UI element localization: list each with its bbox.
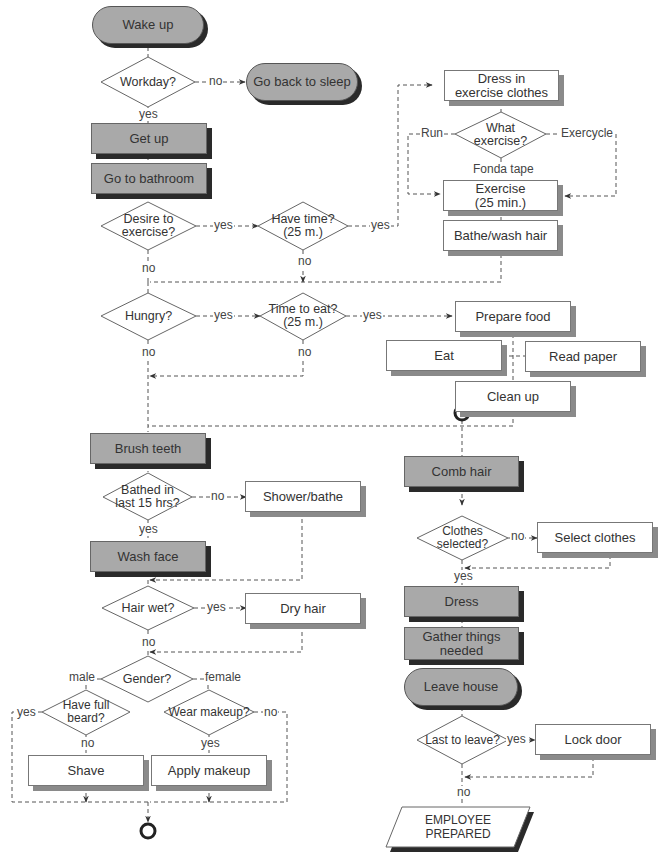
- decision-what-exercise-text: What exercise?: [455, 122, 546, 148]
- process-go-to-bathroom-label: Go to bathroom: [104, 172, 194, 186]
- connector-circle-bottom: [141, 824, 155, 838]
- decision-makeup-label: Wear makeup?: [168, 706, 249, 719]
- process-gather-things: Gather things needed: [404, 627, 519, 660]
- decision-clothes-line2: selected?: [437, 538, 488, 551]
- decision-last-to-leave-label: Last to leave?: [425, 734, 500, 747]
- terminal-wake-up-label: Wake up: [123, 18, 174, 32]
- process-select-clothes: Select clothes: [537, 522, 653, 553]
- edge-label-hair-wet-yes: yes: [206, 601, 227, 614]
- edge-label-workday-yes: yes: [138, 108, 159, 121]
- decision-last-to-leave-text: Last to leave?: [417, 730, 508, 750]
- terminal-wake-up: Wake up: [92, 6, 204, 44]
- process-dress-exercise-line1: Dress in: [478, 72, 526, 86]
- process-shower-bathe-label: Shower/bathe: [263, 490, 343, 504]
- process-prepare-food: Prepare food: [455, 301, 571, 332]
- decision-clothes-text: Clothes selected?: [417, 525, 508, 551]
- edge-label-time-eat-no: no: [297, 346, 312, 359]
- process-exercise-line1: Exercise: [476, 182, 526, 196]
- process-apply-makeup: Apply makeup: [151, 755, 267, 786]
- process-bathe-wash-hair: Bathe/wash hair: [443, 220, 558, 251]
- decision-gender-label: Gender?: [123, 673, 172, 686]
- output-line2: PREPARED: [425, 827, 490, 841]
- process-wash-face: Wash face: [90, 541, 206, 572]
- process-brush-teeth-label: Brush teeth: [115, 442, 182, 456]
- process-prepare-food-label: Prepare food: [475, 310, 550, 324]
- process-dress-label: Dress: [445, 595, 479, 609]
- process-go-to-bathroom: Go to bathroom: [91, 163, 207, 194]
- edge-label-last-no: no: [456, 786, 471, 799]
- process-read-paper: Read paper: [525, 341, 641, 372]
- process-dry-hair-label: Dry hair: [280, 602, 326, 616]
- decision-hungry-label: Hungry?: [125, 310, 172, 323]
- edge-label-clothes-yes: yes: [453, 570, 474, 583]
- edge-label-desire-yes: yes: [213, 219, 234, 232]
- process-eat-label: Eat: [434, 349, 454, 363]
- edge-label-male: male: [68, 671, 96, 684]
- process-clean-up-label: Clean up: [487, 390, 539, 404]
- process-exercise: Exercise (25 min.): [443, 180, 558, 211]
- process-get-up: Get up: [91, 123, 207, 154]
- decision-desire-text: Desire to exercise?: [101, 213, 196, 239]
- edge-label-hair-wet-no: no: [141, 636, 156, 649]
- edge-label-makeup-no: no: [263, 706, 278, 719]
- decision-gender-text: Gender?: [101, 669, 193, 689]
- terminal-leave-house-label: Leave house: [424, 680, 498, 694]
- edge-label-have-time-yes: yes: [370, 219, 391, 232]
- decision-what-exercise-line2: exercise?: [474, 135, 528, 148]
- decision-time-to-eat-line2: (25 m.): [283, 316, 323, 329]
- process-read-paper-label: Read paper: [549, 350, 617, 364]
- process-dress: Dress: [404, 586, 519, 617]
- decision-desire-line2: exercise?: [122, 226, 176, 239]
- edge-label-run: Run: [420, 127, 444, 140]
- edge-label-makeup-yes: yes: [200, 737, 221, 750]
- decision-have-time-line2: (25 m.): [283, 226, 323, 239]
- process-comb-hair: Comb hair: [404, 456, 519, 487]
- process-gather-line1: Gather things: [422, 630, 500, 644]
- edge-label-fonda-tape: Fonda tape: [472, 163, 535, 176]
- process-dress-exercise-clothes: Dress in exercise clothes: [444, 70, 559, 101]
- output-employee-prepared: EMPLOYEE PREPARED: [400, 809, 516, 845]
- edge-label-female: female: [204, 671, 242, 684]
- edge-label-exercycle: Exercycle: [560, 127, 614, 140]
- decision-hair-wet-text: Hair wet?: [102, 598, 194, 618]
- process-shower-bathe: Shower/bathe: [245, 481, 361, 512]
- process-wash-face-label: Wash face: [118, 550, 179, 564]
- edge-label-bathed-yes: yes: [138, 523, 159, 536]
- edge-label-beard-no: no: [80, 737, 95, 750]
- decision-time-to-eat-text: Time to eat? (25 m.): [260, 303, 346, 329]
- edge-label-beard-yes: yes: [16, 706, 37, 719]
- edge-label-desire-no: no: [141, 262, 156, 275]
- process-bathe-wash-hair-label: Bathe/wash hair: [454, 229, 547, 243]
- decision-hair-wet-label: Hair wet?: [122, 602, 175, 615]
- process-exercise-line2: (25 min.): [475, 196, 526, 210]
- flowchart-canvas: Wake up Go back to sleep Leave house Get…: [0, 0, 668, 859]
- edge-label-bathed-no: no: [210, 490, 225, 503]
- edge-label-hungry-no: no: [141, 346, 156, 359]
- terminal-go-back-to-sleep: Go back to sleep: [246, 63, 358, 101]
- decision-workday-label: Workday?: [120, 76, 176, 89]
- process-get-up-label: Get up: [129, 132, 168, 146]
- terminal-leave-house: Leave house: [404, 668, 518, 706]
- decision-bathed-text: Bathed in last 15 hrs?: [103, 484, 192, 510]
- edge-label-clothes-no: no: [510, 530, 525, 543]
- process-dry-hair: Dry hair: [245, 593, 361, 624]
- process-clean-up: Clean up: [455, 381, 571, 412]
- decision-have-time-text: Have time? (25 m.): [258, 213, 348, 239]
- output-line1: EMPLOYEE: [425, 813, 491, 827]
- edge-label-time-eat-yes: yes: [362, 309, 383, 322]
- process-gather-line2: needed: [440, 644, 483, 658]
- process-shave: Shave: [28, 755, 144, 786]
- process-select-clothes-label: Select clothes: [555, 531, 636, 545]
- decision-beard-line2: beard?: [67, 712, 104, 725]
- edge-label-last-yes: yes: [506, 733, 527, 746]
- process-lock-door-label: Lock door: [564, 733, 621, 747]
- process-shave-label: Shave: [68, 764, 105, 778]
- edge-label-hungry-yes: yes: [213, 309, 234, 322]
- decision-workday-text: Workday?: [101, 72, 195, 92]
- process-brush-teeth: Brush teeth: [90, 433, 206, 464]
- decision-beard-text: Have full beard?: [42, 699, 130, 725]
- process-dress-exercise-line2: exercise clothes: [455, 86, 548, 100]
- decision-makeup-text: Wear makeup?: [160, 702, 258, 722]
- process-eat: Eat: [386, 340, 502, 371]
- decision-hungry-text: Hungry?: [101, 306, 196, 326]
